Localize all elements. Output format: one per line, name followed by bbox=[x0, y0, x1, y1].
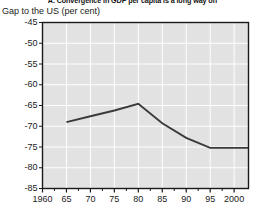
chart-figure: A. Convergence in GDP per capita is a lo… bbox=[0, 0, 265, 217]
plot-area: -45-50-55-60-65-70-75-80-85 196065707580… bbox=[0, 0, 265, 217]
y-axis-tick-label: -45 bbox=[24, 18, 37, 27]
y-axis-tick-label: -50 bbox=[24, 39, 37, 48]
y-axis-tick-label: -85 bbox=[24, 184, 37, 193]
y-axis-tick-label: -60 bbox=[24, 80, 37, 89]
x-axis-tick-label: 2000 bbox=[214, 195, 254, 204]
chart-svg bbox=[0, 0, 265, 217]
y-axis-tick-label: -55 bbox=[24, 60, 37, 69]
y-axis-tick-label: -80 bbox=[24, 163, 37, 172]
y-axis-tick-label: -65 bbox=[24, 101, 37, 110]
y-axis-tick-label: -70 bbox=[24, 122, 37, 131]
y-axis-tick-label: -75 bbox=[24, 143, 37, 152]
